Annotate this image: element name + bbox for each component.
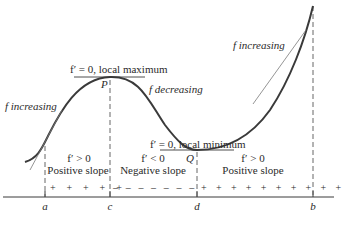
interval-2-description: Negative slope xyxy=(120,165,186,176)
interval-3-condition: f′ > 0 xyxy=(241,153,264,164)
interval-3-description: Positive slope xyxy=(222,165,283,176)
tangent-line-a xyxy=(30,110,62,170)
label-point-Q: Q xyxy=(186,153,194,164)
label-f-increasing-right: f increasing xyxy=(233,40,285,51)
label-local-maximum: f′ = 0, local maximum xyxy=(70,64,168,75)
interval-1-condition: f′ > 0 xyxy=(67,153,90,164)
tick-label-b: b xyxy=(310,201,316,212)
sign-row-3: + + + + + + + + + + xyxy=(201,183,345,193)
label-f-increasing-left: f increasing xyxy=(5,101,57,112)
label-point-P: P xyxy=(101,79,108,90)
label-local-minimum: f′ = 0, local minimum xyxy=(150,139,246,150)
tick-label-c: c xyxy=(108,201,113,212)
interval-1-description: Positive slope xyxy=(47,165,108,176)
tick-label-d: d xyxy=(194,201,200,212)
sign-row-2: – – – – – – – xyxy=(113,183,197,193)
label-f-decreasing: f decreasing xyxy=(149,84,203,95)
interval-2-condition: f′ < 0 xyxy=(141,153,164,164)
tick-label-a: a xyxy=(42,201,48,212)
